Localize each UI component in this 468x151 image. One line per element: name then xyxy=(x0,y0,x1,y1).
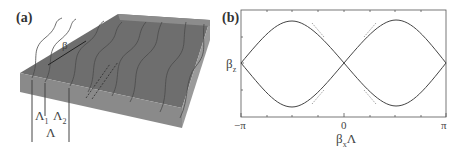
lambda2-subscript: 2 xyxy=(62,117,66,126)
waveguide-array-slab xyxy=(0,0,234,151)
x-tick-zero: 0 xyxy=(341,119,347,131)
x-tick-minus-pi: −π xyxy=(234,119,246,131)
x-axis-symbol: β xyxy=(336,131,343,146)
x-axis-period: Λ xyxy=(347,131,356,146)
y-axis-subscript: z xyxy=(233,65,237,74)
beta-annotation: β xyxy=(62,39,68,51)
lower-band-curve xyxy=(241,63,446,107)
upper-band-curve xyxy=(241,20,446,63)
lambda-period-label: Λ xyxy=(46,125,55,141)
lambda2-label: Λ2 xyxy=(53,108,66,126)
lambda1-label: Λ1 xyxy=(35,108,48,126)
x-axis-label: βxΛ xyxy=(336,131,356,149)
plot-frame xyxy=(241,10,446,117)
y-axis-label: βz xyxy=(226,56,236,74)
panel-b-label: (b) xyxy=(222,10,239,26)
x-tick-pi: π xyxy=(441,119,447,131)
y-axis-symbol: β xyxy=(226,56,233,71)
